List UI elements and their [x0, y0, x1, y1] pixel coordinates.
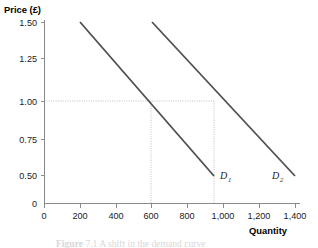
- figure-caption-prefix: Figure: [56, 240, 85, 248]
- x-tick-label-1000: 1,000: [212, 211, 235, 221]
- figure-caption-body: 7.1 A shift in the demand curve: [85, 240, 205, 248]
- x-tick-label-0: 0: [41, 211, 46, 221]
- curve-label-d2-text: D: [271, 170, 280, 181]
- y-tick-label-1-50: 1.50: [19, 18, 37, 28]
- curve-label-d1: D 1: [219, 170, 231, 183]
- curve-label-d2: D 2: [271, 170, 284, 183]
- x-tick-label-600: 600: [143, 211, 158, 221]
- demand-curve-d1: [80, 22, 214, 176]
- y-tick-label-0-50: 0.50: [19, 171, 37, 181]
- y-tick-label-1-00: 1.00: [19, 97, 37, 107]
- x-tick-label-800: 800: [179, 211, 194, 221]
- figure-caption-clip: Figure 7.1 A shift in the demand curve: [0, 240, 318, 248]
- x-tick-label-200: 200: [72, 211, 87, 221]
- curve-label-d1-text: D: [219, 170, 228, 181]
- y-tick-label-0: 0: [32, 199, 37, 209]
- x-tick-label-1400: 1,400: [284, 211, 307, 221]
- x-axis-title: Quantity: [249, 225, 288, 236]
- y-axis-title: Price (£): [4, 4, 41, 15]
- curve-label-d2-subscript: 2: [280, 176, 284, 183]
- figure-caption: Figure 7.1 A shift in the demand curve: [56, 240, 206, 248]
- demand-curve-d2: [152, 22, 295, 176]
- x-tick-label-1200: 1,200: [248, 211, 271, 221]
- y-tick-label-0-75: 0.75: [19, 135, 37, 145]
- x-tick-label-400: 400: [108, 211, 123, 221]
- demand-curve-chart: Price (£) 1.50 1.25 1.00 0.75 0.50 0 0 2…: [0, 0, 318, 248]
- chart-plot-area: Price (£) 1.50 1.25 1.00 0.75 0.50 0 0 2…: [0, 0, 318, 248]
- curve-label-d1-subscript: 1: [228, 176, 231, 183]
- y-tick-label-1-25: 1.25: [19, 54, 37, 64]
